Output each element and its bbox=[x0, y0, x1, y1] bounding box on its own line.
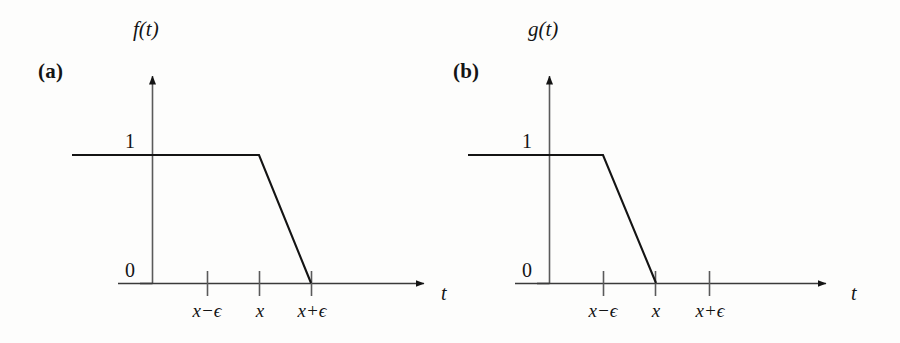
panel-a-axis-title: f(t) bbox=[133, 17, 159, 42]
panel-b-tag: (b) bbox=[453, 59, 479, 84]
figure-canvas bbox=[0, 0, 900, 343]
panel-b-curve bbox=[468, 155, 656, 283]
panel-b-axis-title: g(t) bbox=[528, 17, 558, 42]
panel-a-tag: (a) bbox=[38, 59, 63, 84]
panel-b-tick-label-x-plus-eps: x+ϵ bbox=[696, 300, 725, 322]
panel-a-value-label-zero: 0 bbox=[103, 259, 135, 282]
panel-b-tick-label-x-minus-eps: x−ϵ bbox=[589, 300, 618, 322]
panel-a-tick-label-x-plus-eps: x+ϵ bbox=[298, 300, 327, 322]
panel-b-value-label-zero: 0 bbox=[500, 259, 532, 282]
panel-a-value-label-one: 1 bbox=[103, 130, 135, 153]
panel-b-x-axis-variable: t bbox=[851, 282, 857, 305]
panel-a-x-axis-variable: t bbox=[441, 282, 447, 305]
panel-a-tick-label-x: x bbox=[256, 300, 264, 322]
panel-b-value-label-one: 1 bbox=[500, 130, 532, 153]
panel-a-tick-label-x-minus-eps: x−ϵ bbox=[193, 300, 222, 322]
figure-root: (a) f(t) 1 0 x−ϵ x x+ϵ t (b) g(t) 1 0 x−… bbox=[0, 0, 900, 343]
panel-b-tick-label-x: x bbox=[652, 300, 660, 322]
